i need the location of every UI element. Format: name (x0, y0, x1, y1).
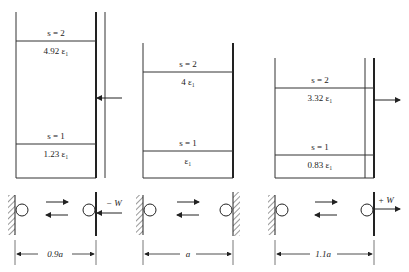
width-label: 0.9a (47, 249, 63, 259)
level-1-label: s = 1 (179, 138, 197, 148)
fixed-wall-hatch-icon (268, 195, 275, 235)
fixed-wall-hatch-icon (136, 195, 143, 235)
particle-icon (144, 204, 156, 216)
level-2-energy: 4 ε₁ (181, 77, 195, 87)
level-2-energy: 4.92 ε₁ (44, 46, 69, 56)
panel-reference: s = 2 4 ε₁ s = 1 ε₁ a (136, 43, 240, 265)
particle-icon (83, 204, 95, 216)
work-label: − W (106, 198, 123, 208)
level-1-label: s = 1 (47, 131, 65, 141)
fixed-wall-hatch-icon (233, 192, 240, 236)
level-2-label: s = 2 (179, 59, 197, 69)
particle-icon (276, 204, 288, 216)
level-2-label: s = 2 (311, 75, 329, 85)
level-1-label: s = 1 (311, 142, 329, 152)
fixed-wall-hatch-icon (8, 195, 15, 235)
energy-level-diagram: s = 2 4.92 ε₁ s = 1 1.23 ε₁ − W 0.9a s =… (0, 0, 409, 272)
panel-compressed: s = 2 4.92 ε₁ s = 1 1.23 ε₁ − W 0.9a (8, 12, 123, 265)
level-1-energy: 0.83 ε₁ (308, 160, 333, 170)
level-1-energy: ε₁ (185, 156, 192, 166)
work-label: + W (378, 195, 395, 205)
particle-icon (361, 204, 373, 216)
particle-icon (16, 204, 28, 216)
particle-icon (220, 204, 232, 216)
width-label: 1.1a (315, 249, 331, 259)
level-2-energy: 3.32 ε₁ (308, 93, 333, 103)
level-2-label: s = 2 (47, 28, 65, 38)
level-1-energy: 1.23 ε₁ (44, 149, 69, 159)
panel-expanded: s = 2 3.32 ε₁ s = 1 0.83 ε₁ + W 1.1a (268, 58, 400, 265)
width-label: a (186, 249, 191, 259)
